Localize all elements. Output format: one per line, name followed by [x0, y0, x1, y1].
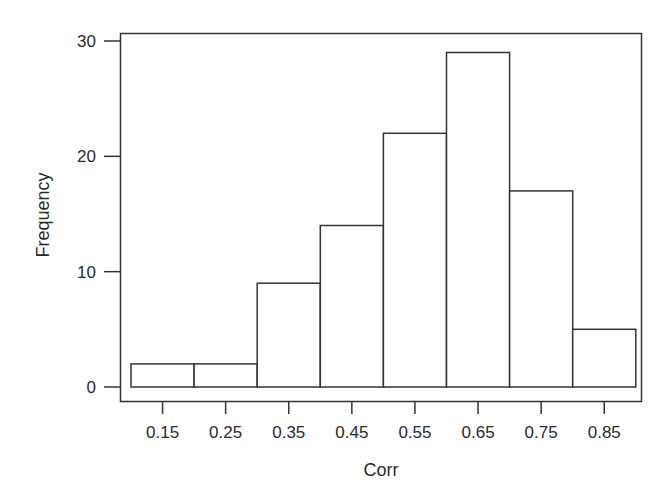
y-tick-label: 0	[87, 378, 96, 397]
y-tick-label: 10	[77, 263, 96, 282]
x-tick-label: 0.25	[209, 423, 242, 442]
x-axis-label: Corr	[364, 460, 399, 480]
y-axis-label: Frequency	[33, 172, 53, 257]
histogram-bar	[510, 191, 573, 387]
y-tick-label: 20	[77, 147, 96, 166]
x-tick-label: 0.65	[462, 423, 495, 442]
histogram-bars	[131, 53, 636, 388]
x-tick-label: 0.85	[588, 423, 621, 442]
histogram-bar	[383, 133, 446, 387]
histogram-bar	[320, 226, 383, 388]
histogram-bar	[573, 329, 636, 387]
histogram-bar	[257, 283, 320, 387]
histogram-bar	[194, 364, 257, 387]
y-tick-label: 30	[77, 32, 96, 51]
x-tick-label: 0.75	[525, 423, 558, 442]
histogram-bar	[131, 364, 194, 387]
x-tick-label: 0.35	[272, 423, 305, 442]
x-tick-label: 0.45	[335, 423, 368, 442]
x-tick-label: 0.55	[398, 423, 431, 442]
histogram-chart: 0102030 0.150.250.350.450.550.650.750.85…	[0, 0, 672, 498]
y-axis: 0102030	[77, 32, 120, 397]
histogram-bar	[447, 53, 510, 388]
x-axis: 0.150.250.350.450.550.650.750.85	[146, 402, 621, 443]
x-tick-label: 0.15	[146, 423, 179, 442]
